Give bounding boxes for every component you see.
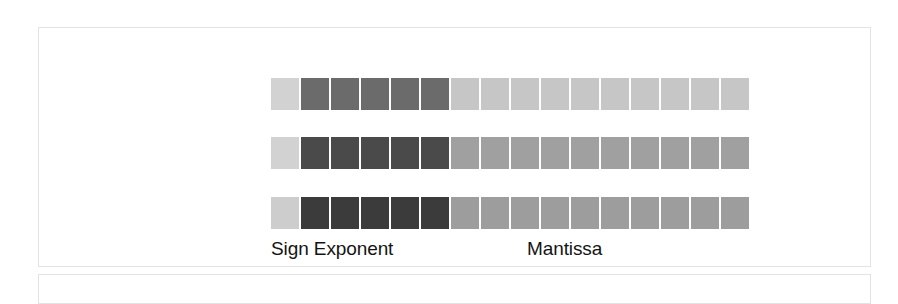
bit-cell-exponent: [361, 78, 389, 110]
bitfield-diagram: Sign Exponent Mantissa: [271, 78, 723, 268]
field-label-group: Sign Exponent Mantissa: [271, 238, 731, 264]
bit-cell-exponent: [301, 197, 329, 229]
bit-cell-mantissa: [631, 78, 659, 110]
bit-cell-sign: [271, 78, 299, 110]
bit-cell-mantissa: [511, 137, 539, 169]
bit-cell-mantissa: [451, 197, 479, 229]
bit-cell-mantissa: [721, 78, 749, 110]
bit-cell-exponent: [391, 197, 419, 229]
bit-cell-mantissa: [601, 197, 629, 229]
bit-cell-exponent: [301, 137, 329, 169]
bit-cell-mantissa: [691, 78, 719, 110]
bit-cell-mantissa: [511, 197, 539, 229]
bit-cell-mantissa: [481, 197, 509, 229]
bit-cell-sign: [271, 137, 299, 169]
bit-cell-mantissa: [481, 137, 509, 169]
label-sign-exponent: Sign Exponent: [271, 238, 393, 260]
bit-cell-mantissa: [661, 137, 689, 169]
bit-cell-exponent: [421, 78, 449, 110]
bit-cell-exponent: [361, 197, 389, 229]
bit-cell-exponent: [421, 137, 449, 169]
figure-panel: Sign Exponent Mantissa: [38, 27, 871, 267]
bit-row: [271, 137, 721, 169]
bit-cell-mantissa: [631, 197, 659, 229]
bit-cell-mantissa: [451, 137, 479, 169]
bit-cell-mantissa: [541, 137, 569, 169]
bit-cell-exponent: [331, 78, 359, 110]
bit-cell-mantissa: [601, 78, 629, 110]
bit-cell-mantissa: [721, 197, 749, 229]
bit-cell-mantissa: [691, 197, 719, 229]
bit-cell-mantissa: [541, 197, 569, 229]
bit-cell-mantissa: [601, 137, 629, 169]
bit-cell-exponent: [301, 78, 329, 110]
bit-cell-exponent: [331, 197, 359, 229]
bit-cell-exponent: [391, 137, 419, 169]
bit-cell-mantissa: [721, 137, 749, 169]
bit-cell-exponent: [331, 137, 359, 169]
next-figure-panel: [38, 274, 871, 304]
bit-cell-mantissa: [571, 78, 599, 110]
bit-cell-mantissa: [631, 137, 659, 169]
bit-cell-mantissa: [511, 78, 539, 110]
bit-cell-mantissa: [481, 78, 509, 110]
bit-cell-sign: [271, 197, 299, 229]
bit-row: [271, 197, 721, 229]
bit-cell-mantissa: [691, 137, 719, 169]
bit-cell-mantissa: [541, 78, 569, 110]
bit-cell-mantissa: [661, 78, 689, 110]
bit-cell-mantissa: [661, 197, 689, 229]
bit-cell-mantissa: [451, 78, 479, 110]
label-mantissa: Mantissa: [527, 238, 602, 260]
bit-cell-exponent: [421, 197, 449, 229]
bit-cell-mantissa: [571, 137, 599, 169]
bit-cell-exponent: [391, 78, 419, 110]
bit-row: [271, 78, 721, 110]
bit-cell-exponent: [361, 137, 389, 169]
bit-cell-mantissa: [571, 197, 599, 229]
